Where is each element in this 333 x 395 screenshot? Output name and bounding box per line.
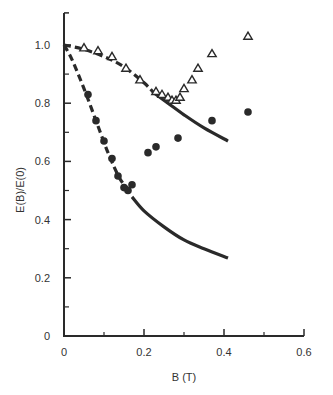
triangle-point: [94, 47, 102, 54]
circle-point: [152, 143, 160, 151]
circle-point: [114, 172, 122, 180]
triangle-point: [188, 76, 196, 83]
triangle-point: [122, 64, 130, 71]
x-tick-label: 0.4: [216, 346, 231, 358]
circle-point: [144, 149, 152, 157]
triangle-point: [180, 84, 188, 91]
y-tick-label: 0.2: [35, 272, 50, 284]
y-axis-title: E(B)/E(0): [14, 167, 26, 213]
triangle-point: [108, 52, 116, 59]
y-tick-label: 1.0: [35, 39, 50, 51]
triangle-point: [244, 32, 252, 39]
axes: 00.20.40.600.20.40.60.81.0: [35, 13, 312, 358]
markers: [80, 32, 252, 194]
chart: 00.20.40.600.20.40.60.81.0 B (T) E(B)/E(…: [0, 0, 333, 395]
x-tick-label: 0: [61, 346, 67, 358]
circle-point: [128, 181, 136, 189]
x-tick-label: 0.2: [136, 346, 151, 358]
circle-point: [108, 155, 116, 163]
y-tick-label: 0.8: [35, 97, 50, 109]
triangle-point: [208, 50, 216, 57]
curve-lower-theory-solid: [132, 197, 228, 258]
circle-point: [84, 91, 92, 99]
x-axis-title: B (T): [172, 371, 196, 383]
triangle-point: [194, 64, 202, 71]
circle-point: [174, 134, 182, 142]
circle-point: [92, 117, 100, 125]
y-tick-label: 0: [44, 330, 50, 342]
circle-point: [244, 108, 252, 116]
y-tick-label: 0.6: [35, 155, 50, 167]
y-tick-label: 0.4: [35, 214, 50, 226]
circle-point: [208, 117, 216, 125]
circle-point: [100, 137, 108, 145]
x-tick-label: 0.6: [296, 346, 311, 358]
